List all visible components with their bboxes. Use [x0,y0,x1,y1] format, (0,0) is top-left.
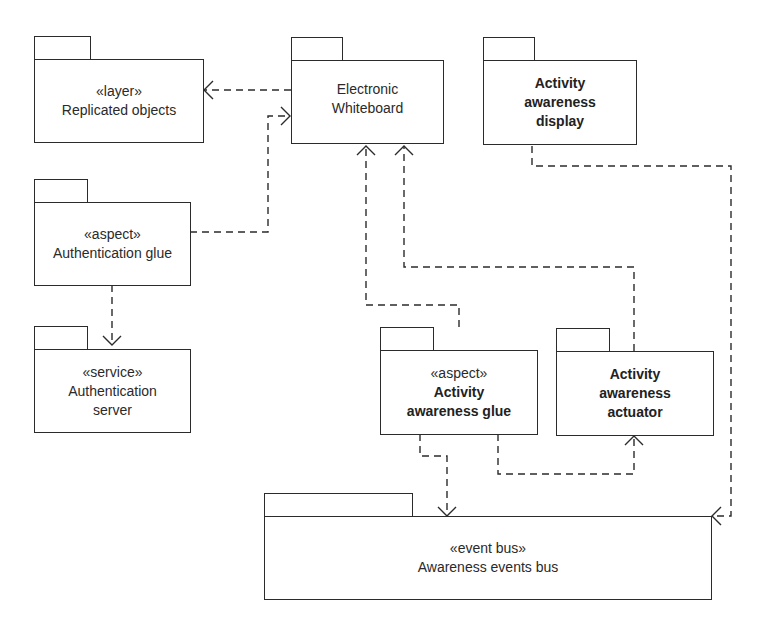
package-tab [34,326,88,350]
package-label: «aspect» Activity awareness glue [380,350,538,435]
package-label: Activity awareness display [483,60,637,145]
package-name-line: display [536,112,584,131]
dependency-awglue-to-eventbus [420,434,447,514]
package-tab [34,179,88,203]
package-name-line: Authentication [68,382,157,401]
package-label: «layer» Replicated objects [34,59,204,143]
package-label: «event bus» Awareness events bus [264,516,712,600]
package-name: Replicated objects [62,101,176,120]
package-tab [34,36,91,60]
package-name-line: actuator [607,403,662,422]
package-name-line: server [93,401,132,420]
dependency-awglue-to-whiteboard [366,146,459,327]
stereotype-label: «layer» [96,82,142,101]
stereotype-label: «service» [83,363,143,382]
dependency-actuator-to-whiteboard [404,146,634,351]
package-tab [264,493,413,517]
package-name-line: Activity [535,74,586,93]
dependency-authglue-to-whiteboard [190,116,289,232]
package-name-line: awareness glue [407,402,511,421]
stereotype-label: «event bus» [450,539,526,558]
stereotype-label: «aspect» [84,225,141,244]
package-label: «aspect» Authentication glue [34,202,191,286]
package-name: Awareness events bus [418,558,559,577]
package-label: «service» Authentication server [34,349,191,433]
package-tab [380,327,434,351]
package-tab [483,37,535,61]
package-label: Activity awareness actuator [556,351,714,436]
package-name-line: Whiteboard [332,99,404,118]
package-name-line: Electronic [337,80,398,99]
package-name-line: awareness [524,93,596,112]
package-name-line: Activity [434,383,485,402]
package-label: Electronic Whiteboard [291,60,444,144]
dependency-awglue-to-actuator [498,434,634,474]
package-tab [556,328,610,352]
stereotype-label: «aspect» [431,364,488,383]
package-name-line: awareness [599,384,671,403]
package-tab [291,37,343,61]
package-name: Authentication glue [53,244,172,263]
package-name-line: Activity [610,365,661,384]
